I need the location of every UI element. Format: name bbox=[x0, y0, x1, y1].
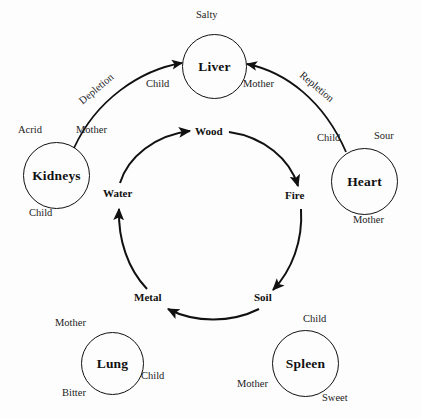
phase-label-soil[interactable]: Soil bbox=[252, 292, 274, 303]
five-phases-diagram: Liver Salty Child Mother Kidneys Acrid M… bbox=[0, 0, 421, 418]
organ-label-heart: Heart bbox=[347, 174, 382, 190]
heart-flavor-tag: Sour bbox=[374, 131, 394, 142]
spleen-mother-tag: Mother bbox=[237, 379, 268, 390]
kidneys-mother-tag: Mother bbox=[76, 125, 107, 136]
organ-node-lung[interactable]: Lung bbox=[81, 332, 144, 395]
organ-label-liver: Liver bbox=[198, 59, 231, 75]
liver-flavor-tag: Salty bbox=[196, 10, 218, 21]
spleen-flavor-tag: Sweet bbox=[322, 393, 348, 404]
arc-fire-to-soil-path bbox=[273, 209, 301, 290]
organ-node-kidneys[interactable]: Kidneys bbox=[23, 142, 90, 209]
phase-label-wood[interactable]: Wood bbox=[193, 126, 225, 137]
organ-label-spleen: Spleen bbox=[286, 356, 325, 372]
organ-node-liver[interactable]: Liver bbox=[182, 34, 247, 99]
arc-water-to-wood-path bbox=[120, 131, 190, 183]
heart-mother-tag: Mother bbox=[353, 215, 384, 226]
lung-flavor-tag: Bitter bbox=[62, 388, 86, 399]
arc-soil-to-metal-path bbox=[168, 309, 259, 320]
organ-label-lung: Lung bbox=[97, 356, 129, 372]
liver-child-tag: Child bbox=[146, 79, 169, 90]
lung-child-tag: Child bbox=[141, 371, 164, 382]
heart-child-tag: Child bbox=[317, 133, 340, 144]
liver-mother-tag: Mother bbox=[243, 79, 274, 90]
organ-node-heart[interactable]: Heart bbox=[331, 148, 398, 215]
phase-label-metal[interactable]: Metal bbox=[132, 292, 163, 303]
phase-label-fire[interactable]: Fire bbox=[283, 190, 306, 201]
organ-label-kidneys: Kidneys bbox=[32, 168, 81, 184]
kidneys-child-tag: Child bbox=[29, 208, 52, 219]
arc-metal-to-water-path bbox=[119, 209, 147, 289]
phase-label-water[interactable]: Water bbox=[101, 188, 134, 199]
lung-mother-tag: Mother bbox=[55, 318, 86, 329]
arc-wood-to-fire-path bbox=[229, 132, 298, 186]
organ-node-spleen[interactable]: Spleen bbox=[272, 330, 339, 397]
spleen-child-tag: Child bbox=[303, 314, 326, 325]
kidneys-flavor-tag: Acrid bbox=[18, 125, 42, 136]
